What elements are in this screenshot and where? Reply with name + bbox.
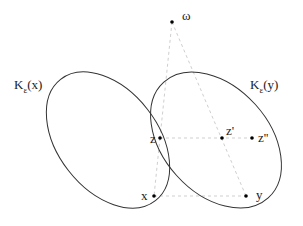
point-z <box>158 136 162 140</box>
label-z1: z' <box>226 124 234 137</box>
point-omega <box>170 20 174 24</box>
point-x <box>152 194 156 198</box>
label-x: x <box>141 189 148 202</box>
label-z2: z'' <box>258 131 268 144</box>
point-z2 <box>250 136 254 140</box>
label-y: y <box>256 188 263 201</box>
point-z1 <box>220 136 224 140</box>
edge-z-x <box>154 138 160 196</box>
set-kx-ellipse <box>21 49 195 226</box>
edge-omega-y <box>172 22 246 196</box>
label-omega: ω <box>182 9 191 22</box>
diagram-canvas: Kε(x) Kε(y) ω z z' z'' x y <box>0 0 303 226</box>
set-kx-label: Kε(x) <box>14 78 42 91</box>
set-ky-label: Kε(y) <box>250 78 278 91</box>
point-y <box>244 194 248 198</box>
label-z: z <box>150 132 156 145</box>
